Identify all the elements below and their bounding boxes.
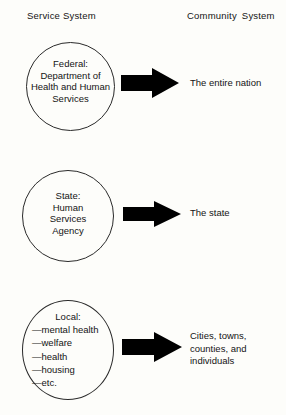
circle-label-federal: Federal: Department of Health and Human … xyxy=(18,58,123,104)
community-word: Community xyxy=(187,10,237,21)
circle-line: Health and Human xyxy=(18,81,123,93)
diagram-row-state: State: Human Services Agency The state xyxy=(0,170,286,262)
right-arrow-icon xyxy=(123,201,181,231)
system-word: System xyxy=(242,10,275,21)
diagram-row-federal: Federal: Department of Health and Human … xyxy=(0,42,286,134)
right-arrow-icon xyxy=(122,332,182,366)
circle-line: Department of xyxy=(18,70,123,82)
circle-line: Federal: xyxy=(18,58,123,70)
circle-line: Services xyxy=(26,213,110,225)
target-label-the-state: The state xyxy=(190,207,230,220)
list-item: —mental health xyxy=(32,323,114,336)
target-line: The entire nation xyxy=(190,77,261,90)
circle-line: Agency xyxy=(26,225,110,237)
list-item: —housing xyxy=(32,363,114,376)
column-header-community-system: CommunitySystem xyxy=(187,10,275,22)
diagram-canvas: Service System CommunitySystem Federal: … xyxy=(0,0,286,415)
target-line: counties, and xyxy=(190,343,247,356)
list-item: —etc. xyxy=(32,376,114,389)
circle-label-local: Local: —mental health —welfare —health —… xyxy=(22,310,114,389)
target-line: The state xyxy=(190,207,230,220)
column-header-service-system: Service System xyxy=(27,10,96,22)
target-line: Cities, towns, xyxy=(190,330,247,343)
right-arrow-icon xyxy=(121,68,179,102)
circle-line: State: xyxy=(26,190,110,202)
list-item: —health xyxy=(32,350,114,363)
list-item: —welfare xyxy=(32,336,114,349)
target-line: individuals xyxy=(190,355,247,368)
diagram-row-local: Local: —mental health —welfare —health —… xyxy=(0,300,286,400)
target-label-cities-towns: Cities, towns, counties, and individuals xyxy=(190,330,247,368)
circle-line: Local: xyxy=(22,310,114,323)
circle-line: Human xyxy=(26,202,110,214)
target-label-entire-nation: The entire nation xyxy=(190,77,261,90)
circle-label-state: State: Human Services Agency xyxy=(26,190,110,236)
circle-line: Services xyxy=(18,93,123,105)
local-service-list: —mental health —welfare —health —housing… xyxy=(22,323,114,389)
